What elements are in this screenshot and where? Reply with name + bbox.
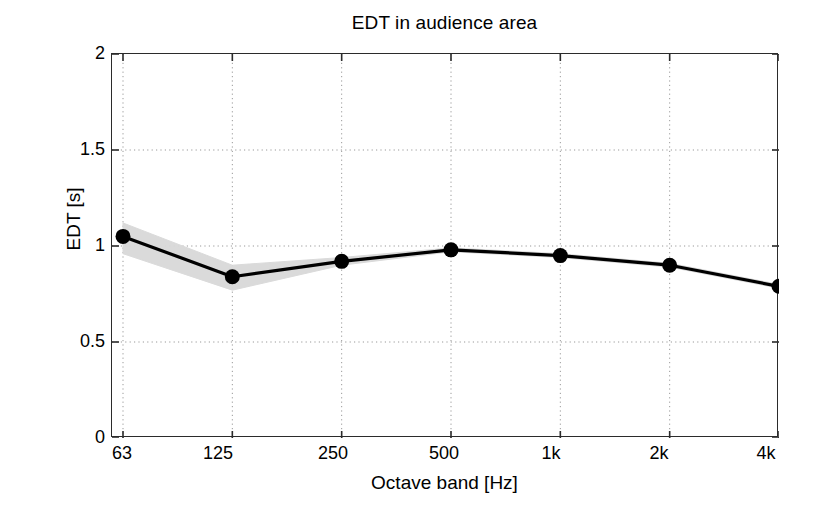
- y-tick-label-0-5: 0.5: [49, 332, 105, 350]
- x-tick-label-4k: 4k: [726, 444, 806, 462]
- chart-title: EDT in audience area: [111, 12, 778, 34]
- x-tick-label-125: 125: [178, 444, 258, 462]
- y-tick-label-2: 2: [49, 44, 105, 62]
- plot-area: [111, 53, 778, 437]
- y-tick-label-1-5: 1.5: [49, 140, 105, 158]
- figure-canvas: EDT in audience area EDT [s] Octave band…: [0, 0, 815, 512]
- x-axis-label: Octave band [Hz]: [111, 472, 778, 494]
- x-tick-label-250: 250: [293, 444, 373, 462]
- y-tick-label-1: 1: [49, 236, 105, 254]
- x-tick-label-500: 500: [404, 444, 484, 462]
- x-tick-label-63: 63: [82, 444, 162, 462]
- x-tick-label-2k: 2k: [619, 444, 699, 462]
- plot-svg: [112, 54, 779, 438]
- x-tick-label-1k: 1k: [511, 444, 591, 462]
- y-axis-tick-labels: 0 0.5 1 1.5 2: [41, 0, 105, 512]
